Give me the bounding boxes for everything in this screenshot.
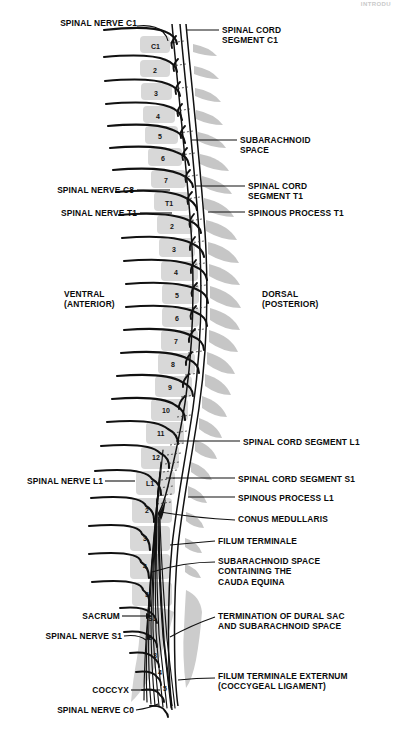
label-spinal-nerve-s1: SPINAL NERVE S1 xyxy=(0,631,122,641)
svg-text:7: 7 xyxy=(174,338,178,345)
label-spinal-nerve-c0: SPINAL NERVE C0 xyxy=(0,705,134,715)
svg-text:2: 2 xyxy=(148,634,152,641)
svg-text:L1: L1 xyxy=(146,480,154,487)
svg-text:3: 3 xyxy=(143,535,147,542)
svg-text:5: 5 xyxy=(158,133,162,140)
svg-text:5: 5 xyxy=(175,292,179,299)
label-spinal-nerve-c1: SPINAL NERVE C1 xyxy=(0,18,137,28)
svg-text:5: 5 xyxy=(145,591,149,598)
label-spinal-cord-segment-t1: SPINAL CORD SEGMENT T1 xyxy=(248,181,307,202)
label-conus-medullaris: CONUS MEDULLARIS xyxy=(238,514,328,524)
svg-text:4: 4 xyxy=(158,669,162,676)
label-spinal-cord-segment-s1: SPINAL CORD SEGMENT S1 xyxy=(238,474,355,484)
svg-text:2: 2 xyxy=(145,507,149,514)
label-spinous-process-l1: SPINOUS PROCESS L1 xyxy=(238,493,334,503)
label-subarachnoid-space-cauda-equina: SUBARACHNOID SPACE CONTAINING THE CAUDA … xyxy=(218,556,320,587)
svg-text:8: 8 xyxy=(171,361,175,368)
svg-text:S1: S1 xyxy=(148,615,157,622)
spinal-cord-anatomy-diagram: C1 2 3 4 5 6 7 T1 2 3 4 5 6 7 8 9 10 11 … xyxy=(0,0,397,744)
svg-text:7: 7 xyxy=(164,177,168,184)
svg-text:11: 11 xyxy=(157,430,165,437)
svg-text:12: 12 xyxy=(152,454,160,461)
label-spinal-cord-segment-c1: SPINAL CORD SEGMENT C1 xyxy=(222,25,281,46)
label-spinal-nerve-l1: SPINAL NERVE L1 xyxy=(0,476,103,486)
svg-text:4: 4 xyxy=(156,113,160,120)
label-termination-of-dural-sac: TERMINATION OF DURAL SAC AND SUBARACHNOI… xyxy=(218,611,345,632)
label-spinal-cord-segment-l1: SPINAL CORD SEGMENT L1 xyxy=(243,437,360,447)
svg-text:9: 9 xyxy=(168,384,172,391)
label-sacrum: SACRUM xyxy=(0,611,120,621)
svg-text:6: 6 xyxy=(161,155,165,162)
svg-text:T1: T1 xyxy=(165,200,173,207)
svg-text:3: 3 xyxy=(172,246,176,253)
svg-text:C1: C1 xyxy=(151,43,160,50)
label-filum-terminale-externum: FILUM TERMINALE EXTERNUM (COCCYGEAL LIGA… xyxy=(218,671,348,692)
svg-text:4: 4 xyxy=(174,269,178,276)
label-spinous-process-t1: SPINOUS PROCESS T1 xyxy=(248,208,344,218)
label-filum-terminale: FILUM TERMINALE xyxy=(218,536,297,546)
svg-text:5: 5 xyxy=(163,685,167,692)
label-ventral-anterior: VENTRAL (ANTERIOR) xyxy=(64,289,115,310)
svg-text:6: 6 xyxy=(175,315,179,322)
svg-text:4: 4 xyxy=(143,563,147,570)
label-subarachnoid-space: SUBARACHNOID SPACE xyxy=(240,135,311,156)
svg-text:2: 2 xyxy=(153,67,157,74)
svg-text:3: 3 xyxy=(154,90,158,97)
label-dorsal-posterior: DORSAL (POSTERIOR) xyxy=(262,289,319,310)
label-spinal-nerve-c8: SPINAL NERVE C8 xyxy=(0,185,134,195)
svg-text:2: 2 xyxy=(170,223,174,230)
svg-text:10: 10 xyxy=(162,407,170,414)
label-spinal-nerve-t1: SPINAL NERVE T1 xyxy=(0,208,137,218)
label-coccyx: COCCYX xyxy=(0,685,129,695)
svg-text:3: 3 xyxy=(153,652,157,659)
